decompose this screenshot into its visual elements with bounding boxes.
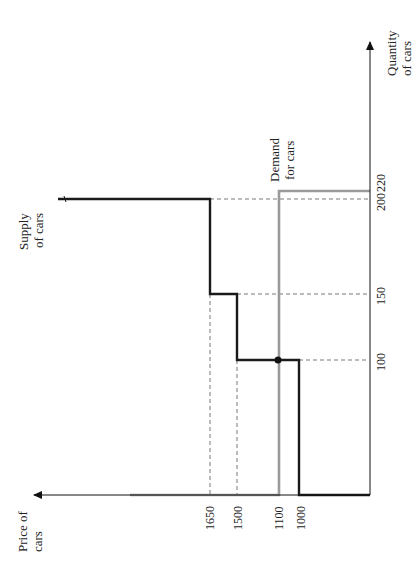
tick-price-1500: 1500	[231, 506, 245, 530]
supply-label-2: of cars	[31, 213, 46, 248]
supply-curve	[58, 199, 370, 495]
price-axis-label-2: cars	[30, 531, 45, 552]
quantity-axis-label: Quantity	[384, 30, 399, 76]
supply-demand-chart: 1650 1500 1100 1000 100 150 200 220 Pric…	[0, 0, 419, 562]
tick-qty-150: 150	[374, 287, 388, 305]
demand-curve	[130, 191, 370, 495]
equilibrium-point	[275, 357, 282, 364]
tick-price-1100: 1100	[272, 506, 286, 530]
demand-label: Demand	[267, 137, 282, 182]
tick-qty-100: 100	[374, 353, 388, 371]
supply-label: Supply	[16, 213, 31, 250]
tick-qty-220: 220	[374, 174, 388, 192]
tick-qty-200: 200	[374, 193, 388, 211]
tick-price-1000: 1000	[294, 506, 308, 530]
demand-label-2: for cars	[282, 141, 297, 180]
quantity-axis-label-2: of cars	[399, 41, 414, 76]
tick-price-1650: 1650	[203, 506, 217, 530]
price-axis-label: Price of	[15, 511, 30, 552]
guide-lines	[210, 199, 368, 494]
